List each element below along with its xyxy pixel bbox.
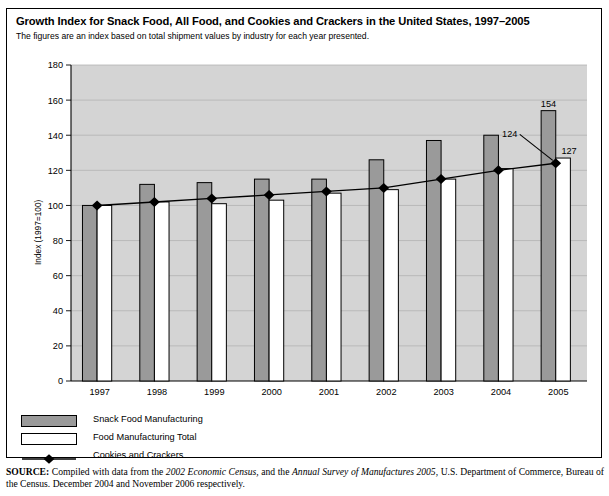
y-tick-label: 140 [48, 131, 63, 141]
source-text-2: and the [259, 466, 292, 477]
bar [384, 190, 399, 381]
bar [326, 193, 341, 381]
bar [269, 200, 284, 381]
bar [369, 160, 384, 381]
bar [212, 204, 227, 381]
legend-item-cookies-crackers: Cookies and Crackers [21, 449, 341, 467]
y-tick-label: 120 [48, 166, 63, 176]
y-tick-label: 100 [48, 201, 63, 211]
legend-label: Snack Food Manufacturing [93, 414, 203, 424]
legend-swatch-gray-icon [21, 415, 77, 427]
bar [312, 179, 327, 381]
chart-svg: 0204060801001201401601801997199819992000… [7, 9, 603, 459]
x-tick-label: 2005 [548, 387, 568, 397]
y-tick-label: 60 [53, 271, 63, 281]
chart-legend: Snack Food Manufacturing Food Manufactur… [21, 413, 341, 467]
legend-item-snack-food: Snack Food Manufacturing [21, 413, 341, 431]
x-tick-label: 2003 [433, 387, 453, 397]
legend-label: Cookies and Crackers [93, 450, 183, 460]
bar [197, 183, 212, 381]
y-tick-label: 0 [58, 376, 63, 386]
source-prefix: SOURCE: [6, 466, 49, 477]
legend-diamond-line-icon [21, 451, 77, 463]
source-italic-1: 2002 Economic Census, [166, 466, 259, 477]
legend-swatch-white-icon [21, 433, 77, 445]
source-text-1: Compiled with data from the [49, 466, 166, 477]
bar [254, 179, 269, 381]
x-tick-label: 2004 [491, 387, 511, 397]
x-tick-label: 2001 [319, 387, 339, 397]
y-tick-label: 80 [53, 236, 63, 246]
legend-label: Food Manufacturing Total [93, 432, 197, 442]
x-tick-label: 1997 [89, 387, 109, 397]
data-label: 124 [502, 129, 517, 139]
bar [97, 205, 112, 381]
y-tick-label: 40 [53, 306, 63, 316]
bar [82, 205, 97, 381]
x-tick-label: 1998 [147, 387, 167, 397]
data-label: 127 [561, 146, 576, 156]
source-italic-2: Annual Survey of Manufactures 2005 [292, 466, 436, 477]
x-tick-label: 1999 [204, 387, 224, 397]
bar [498, 169, 513, 381]
bar [154, 202, 169, 381]
y-tick-label: 20 [53, 341, 63, 351]
data-label: 154 [541, 99, 556, 109]
chart-plot-area: Index (1997=100) 02040608010012014016018… [7, 9, 603, 459]
x-tick-label: 2000 [261, 387, 281, 397]
x-tick-label: 2002 [376, 387, 396, 397]
source-note: SOURCE: Compiled with data from the 2002… [6, 466, 604, 489]
bar [441, 179, 456, 381]
legend-item-food-total: Food Manufacturing Total [21, 431, 341, 449]
y-tick-label: 180 [48, 60, 63, 70]
bar [556, 158, 571, 381]
bar [140, 184, 155, 381]
y-tick-label: 160 [48, 96, 63, 106]
scan-header-strip [0, 0, 609, 7]
bar [541, 111, 556, 381]
figure-frame: Growth Index for Snack Food, All Food, a… [6, 8, 602, 458]
figure-page: Growth Index for Snack Food, All Food, a… [0, 0, 609, 496]
